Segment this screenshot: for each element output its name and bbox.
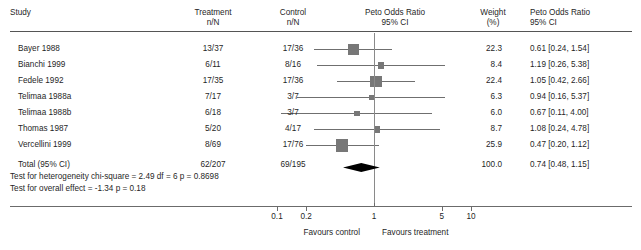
axis-tick: [277, 207, 278, 211]
forest-plot: Study Treatment n/N Control n/N Peto Odd…: [0, 0, 641, 250]
axis-tick: [374, 203, 375, 207]
favours-control-label: Favours control: [230, 228, 360, 238]
axis-ticks: 0.10.21510: [0, 0, 641, 250]
axis-tick-label: 0.2: [286, 212, 326, 222]
axis-tick: [471, 207, 472, 211]
axis-tick: [442, 207, 443, 211]
axis-tick-label: 10: [451, 212, 491, 222]
axis-tick: [306, 207, 307, 211]
axis-tick-label: 1: [354, 212, 394, 222]
favours-treatment-label: Favours treatment: [382, 228, 522, 238]
